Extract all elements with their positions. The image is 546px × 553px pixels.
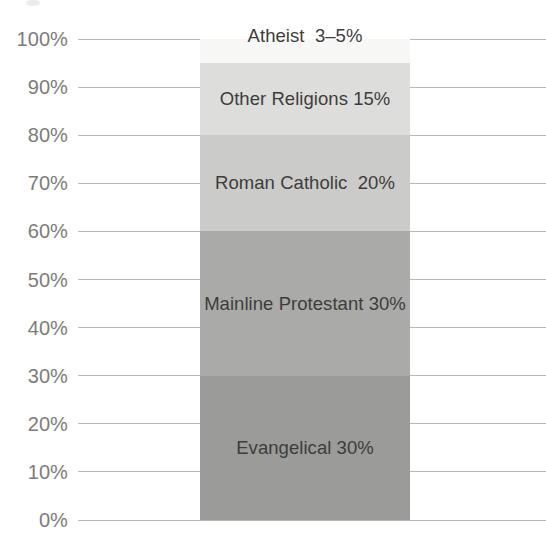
- bar-segment-label: Roman Catholic 20%: [215, 173, 395, 193]
- stacked-bar-column: Evangelical 30%Mainline Protestant 30%Ro…: [200, 39, 410, 520]
- bar-segment: Roman Catholic 20%: [200, 135, 410, 231]
- y-axis-tick-label: 60%: [0, 221, 68, 241]
- y-axis-tick-label: 90%: [0, 77, 68, 97]
- y-axis-tick-label: 50%: [0, 270, 68, 290]
- y-axis-tick-label: 100%: [0, 29, 68, 49]
- bar-segment-label: Other Religions 15%: [220, 89, 391, 109]
- y-axis-tick-label: 70%: [0, 173, 68, 193]
- y-axis-tick-label: 40%: [0, 318, 68, 338]
- y-axis-tick-label: 30%: [0, 366, 68, 386]
- y-axis-tick-label: 10%: [0, 462, 68, 482]
- bar-segment: Mainline Protestant 30%: [200, 231, 410, 375]
- y-axis-tick-label: 0%: [0, 510, 68, 530]
- stacked-bar-chart: 100%90%80%70%60%50%40%30%20%10%0% Evange…: [0, 0, 546, 553]
- y-axis-tick-label: 20%: [0, 414, 68, 434]
- bar-segment-label: Atheist 3–5%: [248, 26, 363, 46]
- bar-segment-label: Evangelical 30%: [236, 438, 374, 458]
- clipped-glyph-artifact: [26, 0, 40, 6]
- bar-segment-label: Mainline Protestant 30%: [204, 294, 406, 314]
- bar-segment: Evangelical 30%: [200, 376, 410, 520]
- gridline: [78, 520, 546, 521]
- y-axis-tick-label: 80%: [0, 125, 68, 145]
- bar-segment: Other Religions 15%: [200, 63, 410, 135]
- bar-segment: Atheist 3–5%: [200, 39, 410, 63]
